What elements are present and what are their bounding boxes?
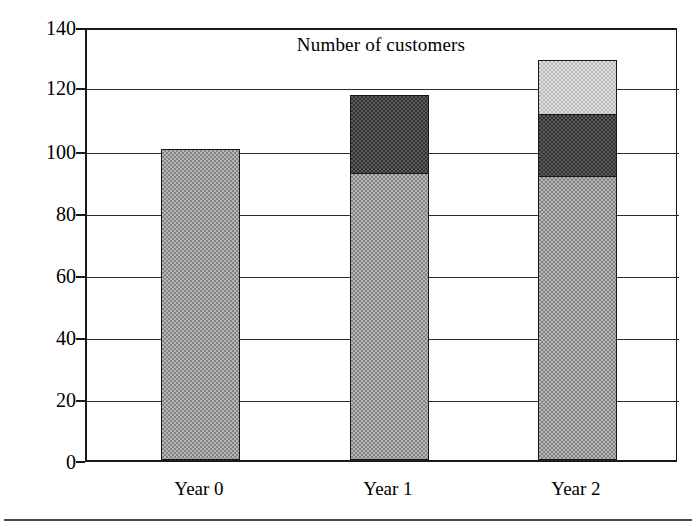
y-tick-label-20: 20 — [0, 390, 76, 410]
bar-segment-year0-existing — [161, 149, 240, 460]
bar-segment-year2-new-y1 — [538, 114, 617, 177]
y-tick-mark-140 — [76, 28, 85, 30]
y-tick-mark-120 — [76, 88, 85, 90]
plot-area — [85, 28, 677, 462]
x-tick-label-year-1: Year 1 — [309, 478, 467, 500]
y-tick-label-120: 120 — [0, 78, 76, 98]
y-tick-label-80: 80 — [0, 204, 76, 224]
bar-year-1 — [350, 96, 429, 460]
bar-year-0 — [161, 149, 240, 460]
bar-segment-year1-new-y1 — [350, 95, 429, 174]
chart-title: Number of customers — [85, 33, 677, 57]
x-tick-label-year-0: Year 0 — [120, 478, 278, 500]
y-tick-mark-60 — [76, 276, 85, 278]
bottom-divider — [4, 519, 692, 521]
y-tick-label-0: 0 — [0, 452, 76, 472]
bar-segment-year1-existing — [350, 173, 429, 460]
y-tick-label-140: 140 — [0, 18, 76, 38]
bar-chart-figure: 140 120 100 80 60 40 20 0 — [0, 0, 696, 528]
y-tick-label-60: 60 — [0, 266, 76, 286]
bar-segment-year2-existing — [538, 176, 617, 460]
y-tick-label-40: 40 — [0, 328, 76, 348]
y-tick-mark-100 — [76, 152, 85, 154]
y-tick-mark-20 — [76, 400, 85, 402]
x-tick-label-year-2: Year 2 — [497, 478, 655, 500]
y-tick-mark-40 — [76, 338, 85, 340]
y-tick-label-100: 100 — [0, 142, 76, 162]
bar-year-2 — [538, 61, 617, 460]
y-tick-mark-0 — [76, 461, 85, 463]
bar-segment-year2-new-y2 — [538, 60, 617, 115]
y-tick-mark-80 — [76, 214, 85, 216]
